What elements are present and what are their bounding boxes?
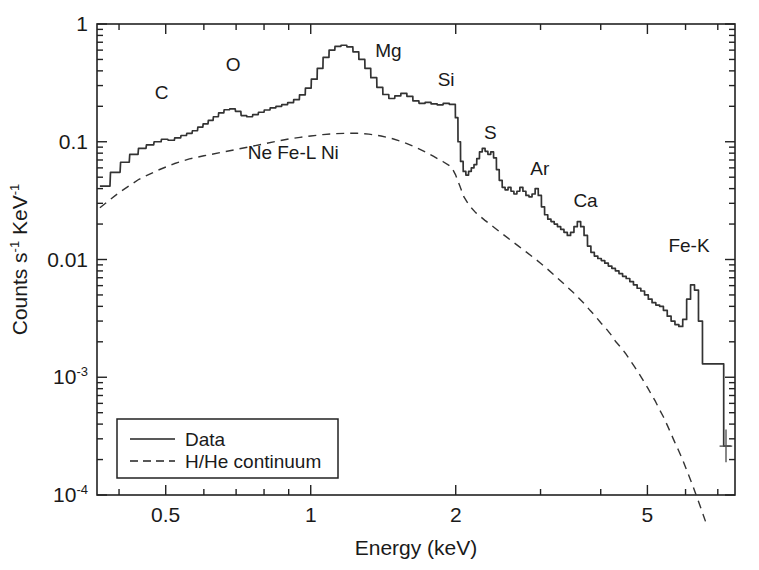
legend-label: Data bbox=[185, 429, 226, 450]
legend-label: H/He continuum bbox=[185, 451, 321, 472]
x-tick-label: 2 bbox=[450, 503, 462, 526]
data-curve bbox=[100, 45, 731, 446]
spectrum-figure: 0.512510.10.0110-310-4 CONe Fe-L NiMgSiS… bbox=[0, 0, 759, 570]
y-tick-label: 0.1 bbox=[59, 130, 88, 153]
spectrum-chart: 0.512510.10.0110-310-4 CONe Fe-L NiMgSiS… bbox=[0, 0, 759, 570]
x-tick-label: 0.5 bbox=[151, 503, 180, 526]
element-label-si: Si bbox=[438, 69, 455, 90]
y-axis-title: Counts s-1 KeV-1 bbox=[7, 184, 31, 336]
element-label-mg: Mg bbox=[375, 40, 401, 61]
y-tick-label: 0.01 bbox=[47, 248, 88, 271]
x-axis-title: Energy (keV) bbox=[355, 536, 478, 559]
y-tick-label: 10-4 bbox=[53, 482, 88, 506]
element-label-fe-k: Fe-K bbox=[668, 235, 710, 256]
x-tick-label: 1 bbox=[305, 503, 317, 526]
element-label-s: S bbox=[484, 122, 497, 143]
y-tick-label: 1 bbox=[76, 12, 88, 35]
element-label-ca: Ca bbox=[573, 190, 598, 211]
element-label-o: O bbox=[226, 54, 241, 75]
element-label-ne-fe-l-ni: Ne Fe-L Ni bbox=[248, 142, 339, 163]
legend: DataH/He continuum bbox=[117, 419, 338, 478]
element-label-c: C bbox=[155, 82, 169, 103]
y-tick-label: 10-3 bbox=[53, 364, 88, 388]
annotations-layer: CONe Fe-L NiMgSiSArCaFe-K bbox=[155, 40, 710, 256]
x-tick-label: 5 bbox=[642, 503, 654, 526]
element-label-ar: Ar bbox=[530, 158, 550, 179]
